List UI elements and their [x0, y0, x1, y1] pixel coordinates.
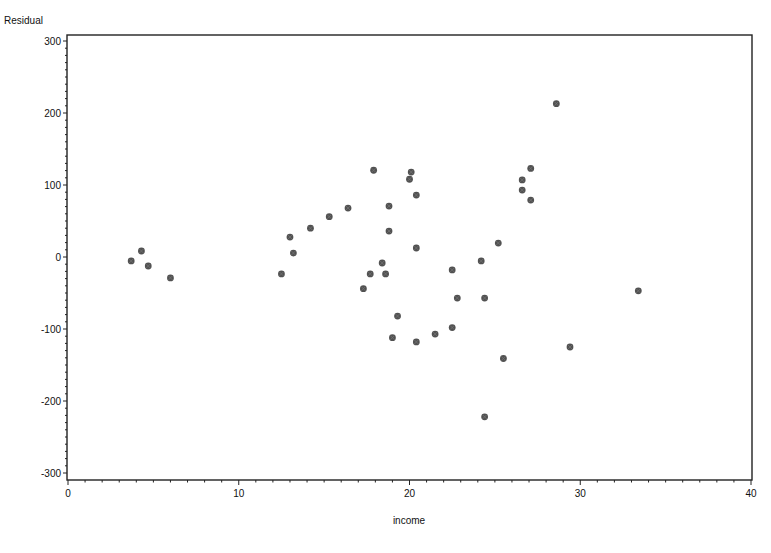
data-point: [454, 295, 461, 302]
data-point: [478, 258, 485, 265]
data-point: [449, 267, 456, 274]
data-point: [287, 234, 294, 241]
data-point: [500, 355, 507, 362]
data-point: [481, 413, 488, 420]
data-point: [386, 203, 393, 210]
data-point: [567, 344, 574, 351]
data-points: [128, 100, 642, 420]
data-point: [367, 271, 374, 278]
data-point: [481, 295, 488, 302]
y-axis: 3002001000-100-200-300: [41, 36, 67, 479]
x-axis: 010203040: [65, 480, 757, 499]
x-tick-label: 10: [233, 488, 245, 499]
y-tick-label: -200: [41, 396, 61, 407]
data-point: [278, 271, 285, 278]
data-point: [128, 258, 135, 265]
plot-frame: [67, 35, 752, 480]
data-point: [408, 169, 415, 176]
data-point: [290, 250, 297, 257]
data-point: [379, 260, 386, 267]
y-axis-title: Residual: [4, 15, 43, 26]
data-point: [389, 334, 396, 341]
x-axis-title: income: [393, 515, 426, 526]
data-point: [553, 100, 560, 107]
data-point: [413, 192, 420, 199]
scatter-plot: 3002001000-100-200-300 010203040 Residua…: [0, 0, 771, 553]
y-tick-label: 0: [55, 252, 61, 263]
data-point: [413, 339, 420, 346]
data-point: [145, 263, 152, 270]
y-tick-label: 300: [44, 36, 61, 47]
data-point: [370, 167, 377, 174]
data-point: [527, 197, 534, 204]
data-point: [386, 228, 393, 235]
x-tick-label: 40: [745, 488, 757, 499]
data-point: [519, 177, 526, 184]
y-tick-label: 200: [44, 108, 61, 119]
data-point: [345, 205, 352, 212]
data-point: [635, 287, 642, 294]
data-point: [519, 187, 526, 194]
y-tick-label: -100: [41, 324, 61, 335]
data-point: [413, 245, 420, 252]
data-point: [167, 274, 174, 281]
data-point: [449, 324, 456, 331]
data-point: [138, 248, 145, 255]
x-tick-label: 0: [65, 488, 71, 499]
x-tick-label: 20: [404, 488, 416, 499]
data-point: [527, 165, 534, 172]
y-tick-label: -300: [41, 468, 61, 479]
data-point: [495, 240, 502, 247]
data-point: [432, 331, 439, 338]
data-point: [394, 313, 401, 320]
data-point: [307, 225, 314, 232]
data-point: [406, 176, 413, 183]
plot-border: [67, 35, 752, 480]
y-tick-label: 100: [44, 180, 61, 191]
data-point: [382, 271, 389, 278]
data-point: [360, 285, 367, 292]
x-tick-label: 30: [575, 488, 587, 499]
data-point: [326, 213, 333, 220]
